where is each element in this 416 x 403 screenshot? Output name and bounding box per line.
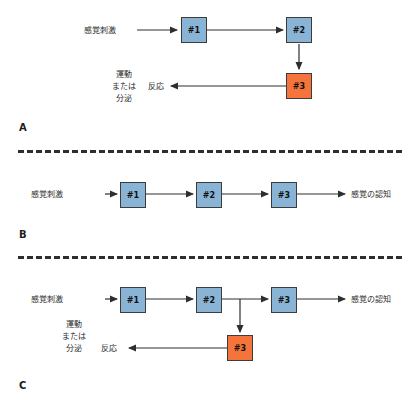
- figure-canvas: 感覚刺激 #1 #2 #3 運動 または 分泌 反応 A 感覚刺激 #1 #2 …: [0, 0, 416, 403]
- panel-a-response-label: 反応: [148, 81, 164, 92]
- panel-a-node-2[interactable]: #2: [286, 17, 312, 43]
- panel-a-motor-line-3: 分泌: [116, 94, 132, 103]
- panel-letter-a: A: [19, 122, 27, 133]
- panel-a-node-1[interactable]: #1: [181, 17, 207, 43]
- panel-a-stimulus-label: 感覚刺激: [84, 25, 116, 36]
- panel-a-motor-line-2: または: [112, 82, 136, 91]
- panel-b-node-1[interactable]: #1: [120, 182, 146, 208]
- panel-c-stimulus-label: 感覚刺激: [31, 294, 63, 305]
- panel-c-node-4-motor[interactable]: #3: [227, 335, 253, 361]
- panel-b-node-2[interactable]: #2: [196, 182, 222, 208]
- panel-letter-b: B: [19, 229, 27, 240]
- panel-c-node-3[interactable]: #3: [271, 287, 297, 313]
- panel-c-motor-line-3: 分泌: [66, 344, 82, 353]
- panel-c-motor-line-1: 運動: [66, 320, 82, 329]
- panel-c-motor-line-2: または: [62, 332, 86, 341]
- panel-b-node-3[interactable]: #3: [271, 182, 297, 208]
- panel-a-node-3[interactable]: #3: [286, 73, 312, 99]
- panel-c-response-label: 反応: [101, 343, 117, 354]
- panel-b-stimulus-label: 感覚刺激: [31, 189, 63, 200]
- panel-letter-c: C: [19, 380, 26, 391]
- panel-b-perception-label: 感覚の認知: [351, 189, 391, 200]
- panel-a-motor-line-1: 運動: [116, 70, 132, 79]
- panel-divider-2: [18, 256, 402, 259]
- panel-c-perception-label: 感覚の認知: [351, 294, 391, 305]
- panel-c-node-2[interactable]: #2: [196, 287, 222, 313]
- panel-c-node-1[interactable]: #1: [120, 287, 146, 313]
- panel-divider-1: [18, 150, 402, 153]
- panel-a-motor-label: 運動 または 分泌: [106, 69, 142, 105]
- panel-c-motor-label: 運動 または 分泌: [56, 319, 92, 355]
